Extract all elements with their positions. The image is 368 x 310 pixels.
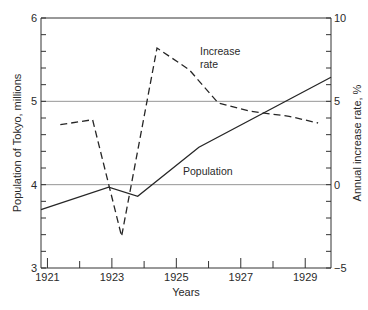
x-tick-label: 1925 (164, 271, 188, 283)
x-tick-label: 1927 (229, 271, 253, 283)
annotation-increase-rate-line1: Increase (200, 45, 240, 57)
y2-tick-label: −5 (334, 262, 347, 274)
x-tick-label: 1923 (100, 271, 124, 283)
annotation-increase-rate-line2: rate (200, 58, 218, 70)
y-tick-label: 6 (31, 12, 37, 24)
y-tick-label: 5 (31, 95, 37, 107)
y2-tick-labels: −50510 (334, 12, 347, 274)
y-tick-label: 4 (31, 179, 37, 191)
series-line-population (41, 77, 331, 210)
y2-axis-label: Annual increase rate, % (351, 84, 363, 201)
y2-tick-label: 10 (334, 12, 346, 24)
x-axis-label: Years (172, 286, 200, 298)
chart: Years Population of Tokyo, millions Annu… (0, 0, 368, 310)
x-tick-label: 1929 (293, 271, 317, 283)
y2-tick-label: 0 (334, 179, 340, 191)
series-group (41, 48, 331, 236)
x-tick-labels: 19211923192519271929 (35, 271, 317, 283)
axes (41, 18, 331, 268)
series-line-increase-rate (60, 48, 318, 236)
y-tick-labels: 3456 (31, 12, 37, 274)
ticks (41, 18, 331, 268)
annotation-population: Population (183, 165, 233, 177)
y-axis-label: Population of Tokyo, millions (11, 73, 23, 212)
y-tick-label: 3 (31, 262, 37, 274)
x-tick-label: 1921 (35, 271, 59, 283)
y2-tick-label: 5 (334, 95, 340, 107)
